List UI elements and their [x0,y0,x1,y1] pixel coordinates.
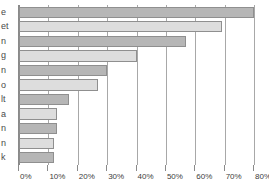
bar-9 [19,138,54,149]
x-tick-30 [106,165,107,171]
bar-group [19,5,266,165]
y-axis-label-7: a [0,110,18,119]
bar-7 [19,108,57,119]
y-axis-label-0: e [0,8,18,17]
y-axis-label-10: k [0,153,18,162]
x-tick-label-0: 0% [20,172,32,181]
x-tick-0 [18,165,19,171]
bar-5 [19,79,98,90]
y-axis-label-6: lt [0,95,18,104]
x-tick-10 [47,165,48,171]
x-tick-60 [194,165,195,171]
bar-4 [19,65,107,76]
x-tick-label-60: 60% [196,172,212,181]
x-tick-label-10: 10% [49,172,65,181]
x-tick-label-30: 30% [108,172,124,181]
x-tick-20 [77,165,78,171]
x-tick-80 [253,165,254,171]
bar-0 [19,7,254,18]
bar-6 [19,94,69,105]
y-axis-label-8: n [0,124,18,133]
x-tick-label-80: 80% [255,172,269,181]
x-axis: 0%10%20%30%40%50%60%70%80% [18,165,266,185]
bar-10 [19,152,54,163]
x-tick-label-50: 50% [167,172,183,181]
bar-1 [19,21,222,32]
y-axis-label-3: g [0,51,18,60]
y-axis-label-5: o [0,81,18,90]
y-axis-label-2: n [0,37,18,46]
x-tick-70 [224,165,225,171]
bar-8 [19,123,57,134]
y-axis-label-column: eetngnoltannk [0,0,18,185]
bar-chart: eetngnoltannk 0%10%20%30%40%50%60%70%80% [0,0,269,185]
x-tick-label-40: 40% [138,172,154,181]
x-tick-40 [136,165,137,171]
y-axis-label-9: n [0,139,18,148]
bar-2 [19,36,186,47]
x-tick-label-20: 20% [79,172,95,181]
y-axis-label-1: et [0,22,18,31]
bar-3 [19,50,137,61]
x-tick-50 [165,165,166,171]
x-tick-label-70: 70% [226,172,242,181]
plot-area [18,5,266,165]
y-axis-label-4: n [0,66,18,75]
